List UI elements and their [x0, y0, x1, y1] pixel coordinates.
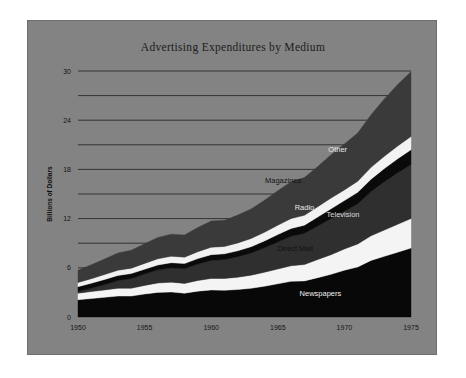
chart-panel: Advertising Expenditures by Medium 06121… [27, 20, 437, 355]
chart-figure: Advertising Expenditures by Medium 06121… [0, 0, 466, 378]
series-label-direct-mail: Direct Mail [277, 244, 313, 253]
y-tick-label-0: 0 [67, 314, 71, 321]
y-tick-label-12: 12 [63, 215, 71, 222]
x-tick-label-1970: 1970 [337, 324, 353, 331]
series-label-newspapers: Newspapers [300, 289, 342, 298]
y-axis-title: Billions of Dollars [46, 166, 53, 222]
y-tick-label-24: 24 [63, 117, 71, 124]
stacked-area-plot: 0612182430 195019551960196519701975 News… [28, 21, 438, 356]
x-axis-tick-labels: 195019551960196519701975 [70, 324, 419, 331]
series-label-television: Television [327, 210, 360, 219]
series-label-radio: Radio [295, 203, 315, 212]
y-tick-label-30: 30 [63, 68, 71, 75]
series-label-magazines: Magazines [265, 176, 302, 185]
x-tick-label-1950: 1950 [70, 324, 86, 331]
x-tick-label-1955: 1955 [137, 324, 153, 331]
x-tick-label-1960: 1960 [203, 324, 219, 331]
x-tick-label-1965: 1965 [270, 324, 286, 331]
x-tick-label-1975: 1975 [403, 324, 419, 331]
series-label-other: Other [328, 145, 347, 154]
y-tick-label-18: 18 [63, 166, 71, 173]
y-tick-label-6: 6 [67, 264, 71, 271]
area-series-group [78, 72, 411, 317]
y-axis-tick-labels: 0612182430 [63, 68, 71, 321]
